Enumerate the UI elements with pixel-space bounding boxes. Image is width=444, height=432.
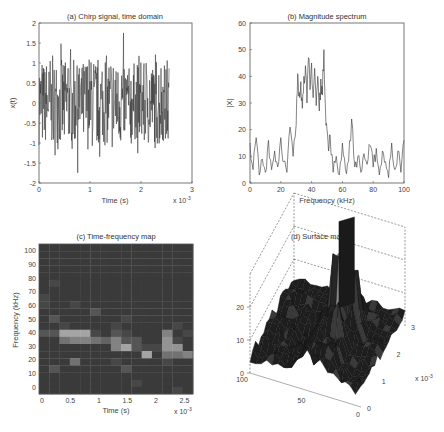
heatmap-cell — [142, 330, 153, 337]
heatmap-cell — [60, 323, 71, 330]
heatmap-cell — [60, 280, 71, 287]
panel-a-ylabel: x(t) — [8, 97, 17, 108]
heatmap-cell — [60, 315, 71, 322]
panel-c-x-multiplier: x 10-3 — [174, 406, 192, 415]
heatmap-cell — [111, 308, 122, 315]
heatmap-cell — [111, 258, 122, 265]
heatmap-cell — [39, 315, 50, 322]
heatmap-cell — [183, 323, 194, 330]
heatmap-cell — [121, 315, 132, 322]
heatmap-cell — [39, 280, 50, 287]
heatmap-cell — [162, 380, 173, 387]
heatmap-cell — [111, 287, 122, 294]
heatmap-cell — [111, 251, 122, 258]
heatmap-cell — [162, 287, 173, 294]
heatmap-cell — [142, 287, 153, 294]
y-tick-label: 1.5 — [26, 40, 36, 47]
heatmap-cell — [162, 265, 173, 272]
heatmap-cell — [90, 280, 101, 287]
heatmap-cell — [60, 351, 71, 358]
heatmap-cell — [162, 251, 173, 258]
heatmap-cell — [70, 387, 81, 394]
heatmap-cell — [131, 330, 142, 337]
heatmap-cell — [142, 244, 153, 251]
heatmap-cell — [39, 251, 50, 258]
heatmap-cell — [152, 280, 163, 287]
heatmap-cell — [90, 294, 101, 301]
heatmap-cell — [39, 387, 50, 394]
heatmap-cell — [49, 373, 60, 380]
heatmap-cell — [152, 373, 163, 380]
heatmap-cell — [152, 273, 163, 280]
heatmap-cell — [80, 294, 91, 301]
heatmap-cell — [172, 301, 183, 308]
heatmap-cell — [121, 351, 132, 358]
heatmap-cell — [90, 358, 101, 365]
heatmap-cell — [49, 265, 60, 272]
heatmap-cell — [131, 323, 142, 330]
y-tick-label: 0 — [242, 180, 246, 187]
heatmap-cell — [90, 273, 101, 280]
y-tick-label: -2 — [30, 180, 36, 187]
heatmap-cell — [49, 351, 60, 358]
heatmap-cell — [142, 387, 153, 394]
y-tick-label: 0 — [32, 100, 36, 107]
heatmap-cell — [183, 273, 194, 280]
y-tick-label: 20 — [28, 356, 36, 363]
heatmap-cell — [80, 315, 91, 322]
heatmap-cell — [162, 337, 173, 344]
x-tick-label: 3 — [190, 186, 194, 193]
heatmap-cell — [70, 273, 81, 280]
heatmap-cell — [131, 387, 142, 394]
heatmap-cell — [111, 280, 122, 287]
surface-peak — [339, 217, 355, 308]
y-tick-label: -1 — [30, 140, 36, 147]
heatmap-cell — [121, 330, 132, 337]
heatmap-cell — [183, 308, 194, 315]
heatmap-cell — [101, 337, 112, 344]
y-tick-label: 2 — [32, 20, 36, 27]
heatmap-cell — [60, 294, 71, 301]
heatmap-cell — [49, 251, 60, 258]
heatmap-cell — [172, 387, 183, 394]
heatmap-cell — [172, 337, 183, 344]
y-tick-label: 30 — [28, 343, 36, 350]
spectrum-trace — [250, 50, 404, 178]
heatmap-cell — [131, 258, 142, 265]
heatmap-cell — [70, 315, 81, 322]
heatmap-cell — [90, 380, 101, 387]
heatmap-cell — [152, 358, 163, 365]
x-tick-label: 1 — [88, 186, 92, 193]
time-tick-label: 3 — [411, 324, 415, 331]
heatmap-cell — [183, 258, 194, 265]
heatmap-cell — [152, 351, 163, 358]
heatmap-cell — [183, 294, 194, 301]
heatmap-cell — [60, 287, 71, 294]
heatmap-cell — [70, 294, 81, 301]
heatmap-cell — [172, 358, 183, 365]
heatmap-cell — [70, 337, 81, 344]
x-tick-label: 100 — [398, 186, 410, 193]
heatmap-cell — [152, 344, 163, 351]
heatmap-cell — [152, 315, 163, 322]
heatmap-cell — [101, 373, 112, 380]
heatmap-cell — [60, 308, 71, 315]
heatmap-cell — [90, 365, 101, 372]
heatmap-cell — [162, 315, 173, 322]
z-tick-label: 20 — [236, 304, 244, 311]
heatmap-cell — [49, 258, 60, 265]
heatmap-cell — [111, 244, 122, 251]
heatmap-cell — [101, 244, 112, 251]
heatmap-cell — [90, 315, 101, 322]
panel-c-xlabel: Time (s) — [102, 406, 130, 415]
x-tick-label: 0 — [40, 397, 44, 404]
heatmap-cell — [131, 373, 142, 380]
heatmap-cell — [121, 244, 132, 251]
panel-b-spectrum-line — [250, 50, 404, 178]
x-tick-label: 2 — [139, 186, 143, 193]
heatmap-cell — [142, 308, 153, 315]
heatmap-cell — [172, 344, 183, 351]
heatmap-cell — [172, 251, 183, 258]
heatmap-cell — [101, 380, 112, 387]
heatmap-cell — [70, 351, 81, 358]
